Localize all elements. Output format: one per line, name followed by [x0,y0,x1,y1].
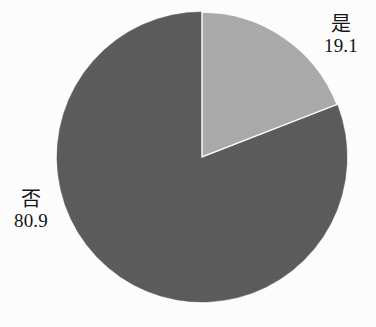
pie-chart: 是 19.1 否 80.9 [0,0,376,327]
pie-label-yes: 是 19.1 [306,14,376,56]
pie-label-no-value: 80.9 [0,211,62,232]
pie-label-no: 否 80.9 [0,189,62,231]
pie-label-yes-value: 19.1 [306,36,376,57]
pie-label-no-category: 否 [0,189,62,211]
pie-label-yes-category: 是 [306,14,376,36]
